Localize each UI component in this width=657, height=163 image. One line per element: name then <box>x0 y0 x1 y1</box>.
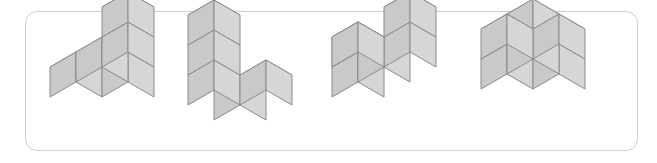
cube-figure-1 <box>56 12 206 152</box>
cube-figure-4 <box>481 12 631 152</box>
screenshot-root <box>0 0 657 163</box>
cube-figure-1-canvas <box>56 12 206 152</box>
cube-figure-3-canvas <box>336 12 486 152</box>
figures-panel <box>25 11 638 151</box>
figures-row <box>26 12 639 152</box>
cube-figure-2-canvas <box>194 12 344 152</box>
cube-figure-2 <box>194 12 344 152</box>
cube-right-face <box>266 60 292 105</box>
cube-figure-4-canvas <box>481 12 631 152</box>
cube-figure-3 <box>336 12 486 152</box>
cube-left-face <box>50 52 76 97</box>
